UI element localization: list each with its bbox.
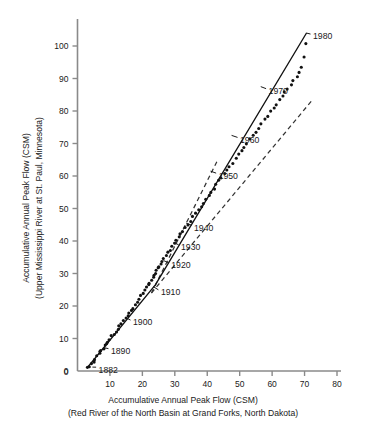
data-point (300, 66, 303, 69)
x-tick-label-50: 50 (235, 379, 245, 389)
data-point (184, 226, 187, 229)
data-point (303, 55, 306, 58)
data-point (231, 162, 234, 165)
annotation-label-1920: 1920 (171, 260, 190, 270)
annotation-label-1960: 1960 (240, 135, 259, 145)
data-point (150, 279, 153, 282)
data-point (134, 303, 137, 306)
data-point (275, 103, 278, 106)
annotation-label-1950: 1950 (219, 171, 238, 181)
data-point (189, 220, 192, 223)
y-axis-caption-line2: (Upper Mississippi River at St. Paul, Mi… (34, 117, 44, 299)
annotation-label-1910: 1910 (161, 287, 180, 297)
y-tick-label-90: 90 (59, 74, 69, 84)
data-point (137, 298, 140, 301)
data-point (235, 157, 238, 160)
data-point (143, 288, 146, 291)
annotation-label-1890: 1890 (111, 346, 130, 356)
y-tick-label-100: 100 (54, 41, 68, 51)
data-point (108, 338, 111, 341)
annotation-leader-1970 (261, 87, 266, 89)
data-point (278, 98, 281, 101)
x-tick-label-60: 60 (267, 379, 277, 389)
chart-figure: 0102030405060708090100010203040506070801… (0, 0, 367, 433)
data-point (162, 257, 165, 260)
annotation-label-1882: 1882 (99, 365, 118, 375)
data-point (113, 333, 116, 336)
data-point (95, 354, 98, 357)
data-point (136, 301, 139, 304)
data-point (181, 230, 184, 233)
double-mass-curve-chart: 0102030405060708090100010203040506070801… (0, 0, 367, 433)
y-tick-label-40: 40 (59, 236, 69, 246)
data-point (139, 294, 142, 297)
data-point (119, 322, 122, 325)
data-point (266, 115, 269, 118)
annotation-label-1970: 1970 (269, 86, 288, 96)
annotation-label-1940: 1940 (194, 223, 213, 233)
data-point (263, 118, 266, 121)
data-point (99, 349, 102, 352)
data-point (169, 249, 172, 252)
data-point (170, 245, 173, 248)
data-point (178, 235, 181, 238)
x-tick-label-70: 70 (300, 379, 310, 389)
data-point (227, 165, 230, 168)
data-point (160, 260, 163, 263)
data-point (197, 208, 200, 211)
data-point (110, 334, 113, 337)
data-point (191, 215, 194, 218)
data-point (237, 153, 240, 156)
data-point (291, 79, 294, 82)
data-point (165, 254, 168, 257)
data-point (194, 212, 197, 215)
data-point (131, 307, 134, 310)
data-point (127, 312, 130, 315)
data-point (157, 265, 160, 268)
annotation-label-1930: 1930 (181, 242, 200, 252)
data-point (202, 202, 205, 205)
data-point (148, 282, 151, 285)
x-tick-label-10: 10 (105, 379, 115, 389)
data-point (127, 314, 130, 317)
annotation-label-1980: 1980 (313, 31, 332, 41)
data-point (296, 75, 299, 78)
data-point (174, 239, 177, 242)
data-point (273, 106, 276, 109)
y-tick-label-50: 50 (59, 204, 69, 214)
data-point (213, 188, 216, 191)
data-point (145, 285, 148, 288)
x-tick-label-80: 80 (332, 379, 342, 389)
y-tick-label-30: 30 (59, 269, 69, 279)
data-point (93, 358, 96, 361)
y-tick-label-60: 60 (59, 171, 69, 181)
x-tick-label-0: 0 (64, 367, 69, 377)
x-axis-caption-line2: (Red River of the North Basin at Grand F… (68, 408, 298, 418)
data-point (142, 292, 145, 295)
data-point (259, 122, 262, 125)
y-tick-label-70: 70 (59, 139, 69, 149)
data-point (257, 127, 260, 130)
x-tick-label-20: 20 (138, 379, 148, 389)
data-point (298, 71, 301, 74)
data-point (122, 319, 125, 322)
y-tick-label-20: 20 (59, 301, 69, 311)
data-point (242, 146, 245, 149)
data-point (204, 198, 207, 201)
y-axis-caption-line1: Accumulative Annual Peak Flow (CSM) (21, 133, 31, 283)
data-point (117, 328, 120, 331)
annotation-label-1900: 1900 (133, 317, 152, 327)
data-point (200, 205, 203, 208)
annotation-leader-1980 (306, 33, 310, 34)
data-point (269, 110, 272, 113)
x-tick-label-30: 30 (170, 379, 180, 389)
data-point (240, 149, 243, 152)
y-tick-label-10: 10 (59, 334, 69, 344)
y-tick-label-80: 80 (59, 106, 69, 116)
data-point (214, 183, 217, 186)
data-point (290, 83, 293, 86)
data-point (88, 365, 91, 368)
x-tick-label-40: 40 (203, 379, 213, 389)
data-point (304, 42, 307, 45)
data-point (254, 131, 257, 134)
